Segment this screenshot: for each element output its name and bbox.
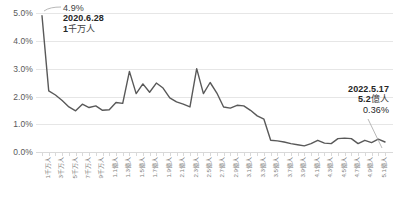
x-tick-mark (271, 153, 272, 156)
x-tick-mark (298, 153, 299, 156)
annotation-start-population: 1千万人 (63, 24, 104, 34)
y-tick-label: 2.0% (13, 93, 33, 102)
x-tick-mark (69, 153, 70, 156)
x-tick-mark (96, 153, 97, 156)
x-tick-mark (163, 153, 164, 156)
x-tick-mark (338, 153, 339, 156)
x-tick-mark (230, 153, 231, 156)
x-tick-mark (217, 153, 218, 156)
x-tick-label: 3.9億人 (300, 157, 306, 178)
x-tick-mark (156, 153, 157, 156)
x-tick-mark (136, 153, 137, 156)
x-tick-mark (378, 153, 379, 156)
x-tick-mark (183, 153, 184, 156)
x-tick-mark (55, 153, 56, 156)
y-tick-label: 1.0% (13, 120, 33, 129)
x-tick-label: 3千万人 (58, 157, 64, 178)
x-tick-mark (257, 153, 258, 156)
x-tick-mark (351, 153, 352, 156)
x-tick-mark (264, 153, 265, 156)
x-tick-mark (190, 153, 191, 156)
x-tick-label: 4.9億人 (367, 157, 373, 178)
x-tick-label: 4.5億人 (341, 157, 347, 178)
x-tick-label: 2.1億人 (179, 157, 185, 178)
x-tick-label: 1.3億人 (125, 157, 131, 178)
annotation-end-population-unit: 億人 (371, 94, 389, 104)
x-tick-label: 1.9億人 (166, 157, 172, 178)
x-tick-label: 4.7億人 (354, 157, 360, 178)
y-tick-label: 5.0% (13, 9, 33, 18)
x-tick-mark (250, 153, 251, 156)
x-tick-label: 1.1億人 (112, 157, 118, 178)
x-tick-label: 2.9億人 (233, 157, 239, 178)
x-tick-mark (62, 153, 63, 156)
x-tick-mark (170, 153, 171, 156)
x-tick-mark (345, 153, 346, 156)
annotation-start-population-unit: 千万人 (68, 24, 95, 34)
y-tick-label: 4.0% (13, 37, 33, 46)
x-tick-mark (331, 153, 332, 156)
annotation-start-date: 2020.6.28 (63, 13, 104, 23)
x-tick-label: 1.5億人 (139, 157, 145, 178)
x-tick-label: 5千万人 (72, 157, 78, 178)
annotation-start: 4.9% 2020.6.28 1千万人 (63, 3, 104, 34)
x-tick-mark (42, 153, 43, 156)
x-tick-mark (324, 153, 325, 156)
annotation-end-population-number: 5.2 (358, 94, 371, 104)
x-tick-label: 1.7億人 (152, 157, 158, 178)
x-tick-mark (210, 153, 211, 156)
x-tick-mark (82, 153, 83, 156)
x-tick-label: 2.5億人 (206, 157, 212, 178)
x-tick-label: 3.3億人 (260, 157, 266, 178)
x-tick-mark (277, 153, 278, 156)
x-tick-label: 5.1億人 (381, 157, 387, 178)
x-tick-label: 4.1億人 (314, 157, 320, 178)
x-tick-mark (311, 153, 312, 156)
x-tick-mark (129, 153, 130, 156)
x-tick-mark (143, 153, 144, 156)
x-tick-mark (89, 153, 90, 156)
x-tick-mark (318, 153, 319, 156)
x-tick-mark (237, 153, 238, 156)
x-tick-mark (197, 153, 198, 156)
x-tick-label: 1千万人 (45, 157, 51, 178)
x-tick-mark (365, 153, 366, 156)
y-tick-label: 0.0% (13, 148, 33, 157)
x-tick-label: 3.1億人 (246, 157, 252, 178)
x-tick-label: 2.3億人 (193, 157, 199, 178)
x-tick-label: 3.5億人 (273, 157, 279, 178)
x-tick-mark (123, 153, 124, 156)
x-tick-mark (103, 153, 104, 156)
x-axis: 1千万人3千万人5千万人7千万人9千万人1.1億人1.3億人1.5億人1.7億人… (36, 153, 393, 200)
annotation-end-percent: 0.36% (348, 105, 389, 115)
x-tick-mark (203, 153, 204, 156)
annotation-end: 2022.5.17 5.2億人 0.36% (348, 84, 389, 115)
x-tick-mark (49, 153, 50, 156)
x-tick-label: 4.3億人 (327, 157, 333, 178)
annotation-start-percent: 4.9% (63, 3, 104, 13)
x-tick-mark (109, 153, 110, 156)
x-tick-label: 7千万人 (85, 157, 91, 178)
annotation-end-date: 2022.5.17 (348, 84, 389, 94)
x-tick-mark (150, 153, 151, 156)
y-axis: 5.0% 4.0% 3.0% 2.0% 1.0% 0.0% (0, 0, 36, 200)
line-chart: 5.0% 4.0% 3.0% 2.0% 1.0% 0.0% 1千万人3千万人5千… (0, 0, 393, 200)
x-tick-label: 3.7億人 (287, 157, 293, 178)
y-tick-label: 3.0% (13, 65, 33, 74)
x-tick-mark (244, 153, 245, 156)
x-tick-mark (224, 153, 225, 156)
x-tick-mark (284, 153, 285, 156)
x-tick-mark (116, 153, 117, 156)
x-tick-mark (385, 153, 386, 156)
x-tick-mark (304, 153, 305, 156)
x-tick-mark (177, 153, 178, 156)
x-tick-label: 2.7億人 (219, 157, 225, 178)
x-tick-mark (358, 153, 359, 156)
annotation-end-population: 5.2億人 (348, 94, 389, 104)
x-tick-mark (291, 153, 292, 156)
x-tick-mark (372, 153, 373, 156)
x-tick-label: 9千万人 (98, 157, 104, 178)
x-tick-mark (76, 153, 77, 156)
